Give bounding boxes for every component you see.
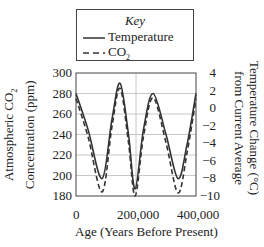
left-tick-260: 260 <box>42 106 72 122</box>
left-tick-220: 220 <box>42 147 72 163</box>
right-tick-2: 2 <box>196 83 216 99</box>
x-tick-200000: 200,000 <box>117 207 159 223</box>
x-tick-0: 0 <box>73 207 80 223</box>
right-tick-0: 0 <box>196 100 216 116</box>
right-tick-neg4: −4 <box>196 135 216 151</box>
left-tick-200: 200 <box>42 168 72 184</box>
right-axis-label: Temperature Change (°C) from Current Ave… <box>232 53 262 203</box>
x-axis-label: Age (Years Before Present) <box>75 224 218 240</box>
x-tick-400000: 400,000 <box>177 207 219 223</box>
right-tick-4: 4 <box>196 65 216 81</box>
left-axis-label: Atmospheric CO2 Concentration (ppm) <box>1 70 37 200</box>
left-tick-280: 280 <box>42 86 72 102</box>
right-tick-neg10: −10 <box>196 188 220 204</box>
right-tick-neg8: −8 <box>196 170 216 186</box>
left-tick-180: 180 <box>42 188 72 204</box>
left-tick-300: 300 <box>42 65 72 81</box>
right-tick-neg2: −2 <box>196 118 216 134</box>
right-tick-neg6: −6 <box>196 153 216 169</box>
left-tick-240: 240 <box>42 127 72 143</box>
